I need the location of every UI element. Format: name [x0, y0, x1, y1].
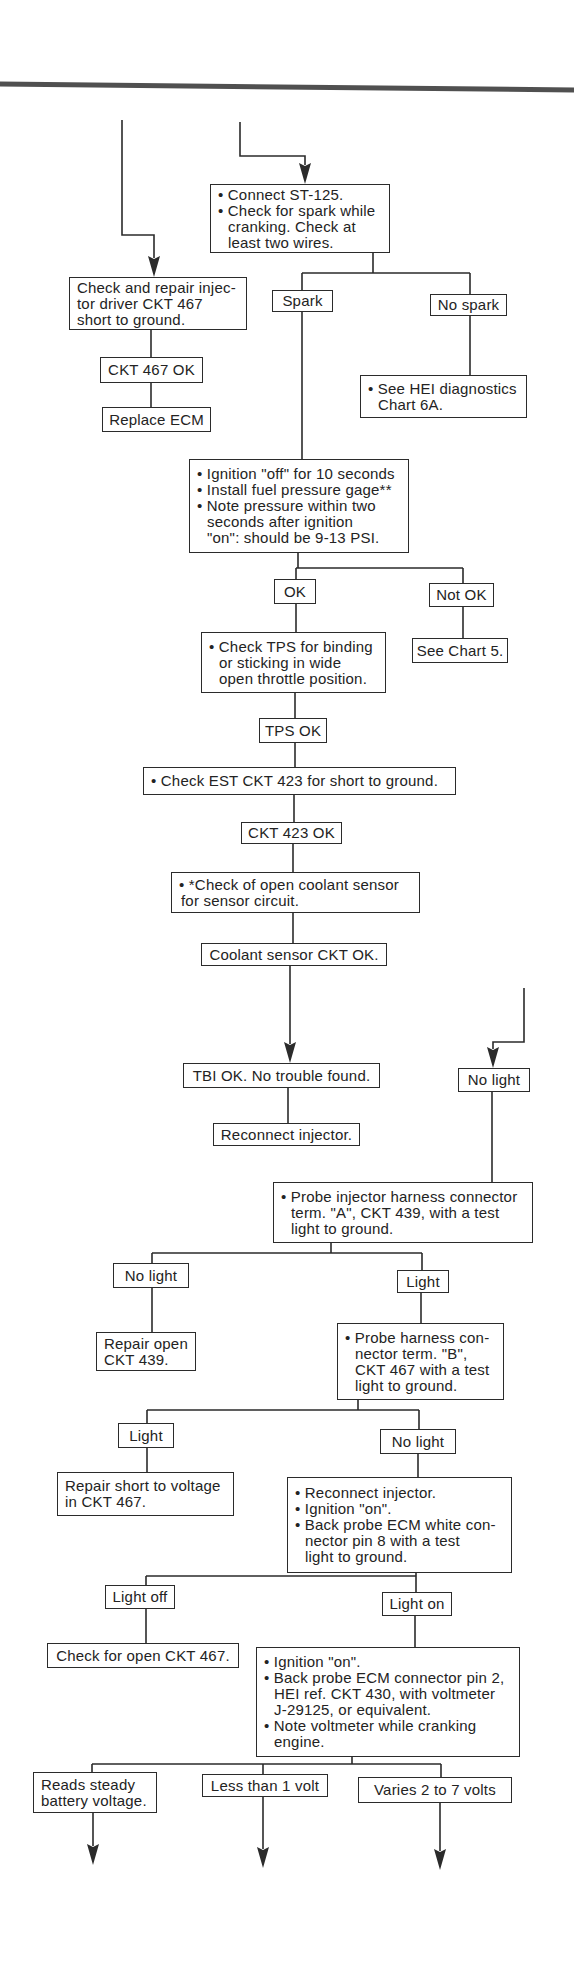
node-light-c: Light — [118, 1423, 174, 1448]
node-no-light-b: No light — [113, 1263, 189, 1288]
node-repair-short-467: Repair short to voltage in CKT 467. — [57, 1472, 234, 1516]
node-text: Not OK — [436, 587, 486, 603]
node-connect-st125: • Connect ST-125. • Check for spark whil… — [210, 184, 390, 253]
node-text: Check for open CKT 467. — [56, 1648, 230, 1664]
arrow-down-icon — [87, 1844, 99, 1865]
node-text: light to ground. — [281, 1221, 393, 1237]
node-check-open-467: Check for open CKT 467. — [47, 1643, 239, 1668]
node-check-est: • Check EST CKT 423 for short to ground. — [143, 767, 456, 795]
arrow-down-icon — [434, 1849, 446, 1870]
node-text: • See HEI diagnostics — [368, 381, 517, 397]
node-text: • Ignition "on". — [295, 1501, 392, 1517]
node-text: No light — [468, 1072, 520, 1088]
node-text: Spark — [282, 293, 322, 309]
node-text: nector term. "B", — [345, 1346, 467, 1362]
node-text: CKT 439. — [104, 1352, 169, 1368]
node-ckt467-ok: CKT 467 OK — [100, 357, 203, 383]
connector-branch-spark — [302, 253, 470, 294]
node-varies-2-7v: Varies 2 to 7 volts — [358, 1777, 512, 1803]
node-text: • Probe harness con- — [345, 1330, 489, 1346]
node-text: Repair open — [104, 1336, 188, 1352]
node-repair-ckt467-short: Check and repair injec- tor driver CKT 4… — [69, 277, 247, 330]
node-ok: OK — [274, 579, 316, 604]
node-text: least two wires. — [218, 235, 334, 251]
arrow-down-icon — [257, 1847, 269, 1868]
node-ignition-off: • Ignition "off" for 10 seconds • Instal… — [189, 459, 409, 553]
node-ckt423-ok: CKT 423 OK — [241, 822, 342, 844]
node-light-b: Light — [397, 1270, 449, 1293]
node-text: OK — [284, 584, 306, 600]
node-text: TPS OK — [265, 723, 321, 739]
arrow-down-icon — [148, 256, 160, 277]
node-text: "on": should be 9-13 PSI. — [197, 530, 379, 546]
node-text: • Ignition "on". — [264, 1654, 361, 1670]
node-text: battery voltage. — [41, 1793, 147, 1809]
node-text: See Chart 5. — [417, 643, 504, 659]
node-text: cranking. Check at — [218, 219, 356, 235]
node-text: • Reconnect injector. — [295, 1485, 436, 1501]
node-text: engine. — [264, 1734, 325, 1750]
node-text: Light — [406, 1274, 440, 1290]
node-text: CKT 467 with a test — [345, 1362, 489, 1378]
node-text: • Check TPS for binding — [209, 639, 373, 655]
node-text: • Ignition "off" for 10 seconds — [197, 466, 395, 482]
node-text: • Note pressure within two — [197, 498, 376, 514]
node-text: nector pin 8 with a test — [295, 1533, 460, 1549]
node-replace-ecm: Replace ECM — [102, 407, 211, 432]
node-reconnect-injector: Reconnect injector. — [213, 1123, 360, 1146]
node-text: • *Check of open coolant sensor — [179, 877, 399, 893]
connector-incoming-top — [240, 122, 305, 165]
node-no-light-c: No light — [380, 1429, 456, 1454]
node-text: HEI ref. CKT 430, with voltmeter — [264, 1686, 495, 1702]
node-text: Coolant sensor CKT OK. — [209, 947, 378, 963]
node-text: • Note voltmeter while cranking — [264, 1718, 476, 1734]
arrow-down-icon — [487, 1047, 499, 1068]
node-text: No spark — [438, 297, 500, 313]
node-see-hei: • See HEI diagnostics Chart 6A. — [360, 375, 527, 418]
node-probe-term-a: • Probe injector harness connector term.… — [273, 1182, 533, 1243]
node-light-off: Light off — [105, 1585, 175, 1609]
connector-branch-pin8 — [146, 1573, 416, 1592]
connector-branch-term-a — [152, 1243, 422, 1270]
node-text: term. "A", CKT 439, with a test — [281, 1205, 499, 1221]
node-text: • Back probe ECM connector pin 2, — [264, 1670, 504, 1686]
node-text: • Back probe ECM white con- — [295, 1517, 496, 1533]
connector-incoming-left — [122, 120, 154, 258]
node-text: light to ground. — [295, 1549, 407, 1565]
node-text: CKT 423 OK — [248, 825, 335, 841]
node-text: Light off — [113, 1589, 168, 1605]
node-text: Chart 6A. — [368, 397, 443, 413]
node-check-coolant: • *Check of open coolant sensor for sens… — [171, 872, 420, 913]
node-text: Reconnect injector. — [221, 1127, 352, 1143]
arrow-down-icon — [299, 163, 311, 184]
node-text: • Install fuel pressure gage** — [197, 482, 392, 498]
node-text: Light — [129, 1428, 163, 1444]
node-spark: Spark — [272, 290, 333, 312]
node-no-spark: No spark — [430, 294, 507, 316]
node-text: Light on — [390, 1596, 445, 1612]
node-text: in CKT 467. — [65, 1494, 146, 1510]
node-text: CKT 467 OK — [108, 362, 195, 378]
node-repair-open-439: Repair open CKT 439. — [96, 1332, 196, 1371]
node-text: short to ground. — [77, 312, 185, 328]
node-light-on: Light on — [382, 1592, 452, 1616]
connector-branch-term-b — [147, 1400, 419, 1429]
node-no-light-a: No light — [458, 1068, 530, 1092]
node-text: TBI OK. No trouble found. — [193, 1068, 371, 1084]
node-text: J-29125, or equivalent. — [264, 1702, 431, 1718]
node-text: • Check EST CKT 423 for short to ground. — [151, 773, 438, 789]
node-text: Check and repair injec- — [77, 280, 236, 296]
node-coolant-ok: Coolant sensor CKT OK. — [201, 943, 387, 966]
node-tps-ok: TPS OK — [259, 718, 327, 743]
node-text: Less than 1 volt — [211, 1778, 319, 1794]
node-text: Replace ECM — [109, 412, 204, 428]
node-less-than-1v: Less than 1 volt — [202, 1774, 328, 1797]
node-back-probe-pin8: • Reconnect injector. • Ignition "on". •… — [287, 1477, 512, 1573]
node-back-probe-pin2: • Ignition "on". • Back probe ECM connec… — [256, 1647, 520, 1757]
node-steady-battery: Reads steady battery voltage. — [33, 1772, 157, 1813]
node-text: tor driver CKT 467 — [77, 296, 203, 312]
node-text: Repair short to voltage — [65, 1478, 221, 1494]
node-see-chart5: See Chart 5. — [412, 638, 508, 663]
node-text: Varies 2 to 7 volts — [374, 1782, 496, 1798]
node-text: No light — [125, 1268, 177, 1284]
